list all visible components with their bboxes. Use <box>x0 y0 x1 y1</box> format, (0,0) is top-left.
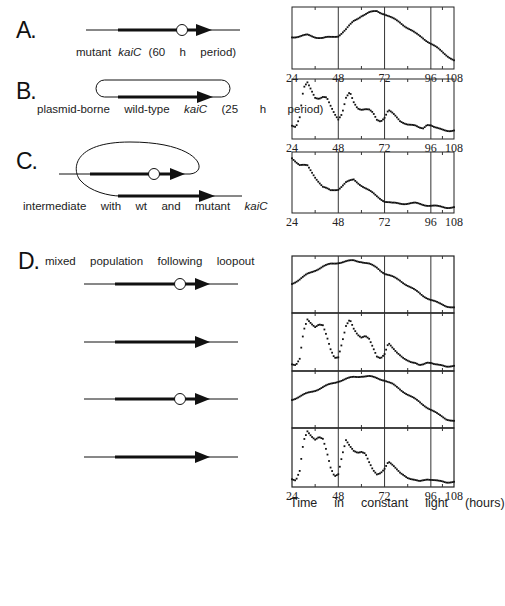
arrowhead-icon <box>199 190 215 202</box>
x-tick-label: 48 <box>332 489 344 503</box>
chart-d2 <box>291 313 455 371</box>
x-tick-label: 48 <box>332 215 344 229</box>
x-tick-label: 108 <box>445 215 463 229</box>
x-tick-label: 24 <box>286 489 298 503</box>
chart-a: 24487296108 <box>286 7 463 85</box>
gene-diagram-plasmid <box>96 80 230 103</box>
chart-c: 24487296108 <box>286 152 463 229</box>
chart-b: 24487296108 <box>286 79 463 155</box>
arrowhead-icon <box>195 451 210 463</box>
gene-wild-type <box>84 451 238 463</box>
mutation-marker-icon <box>175 279 186 290</box>
gene-diagram-intermediate <box>59 142 242 202</box>
x-tick-label: 108 <box>445 489 463 503</box>
arrowhead-icon <box>195 278 210 290</box>
gene-mutant <box>84 278 238 290</box>
arrowhead-icon <box>170 168 185 180</box>
x-tick-label: 24 <box>286 215 298 229</box>
mutation-marker-icon <box>149 169 160 180</box>
mutation-marker-icon <box>175 394 186 405</box>
arrowhead-icon <box>195 336 210 348</box>
gene-diagrams-mixed <box>84 278 238 463</box>
chart-d3 <box>291 371 455 428</box>
luminescence-charts: 2448729610824487296108244872961082448729… <box>286 7 463 503</box>
gene-wild-type <box>84 336 238 348</box>
chart-d4: 24487296108 <box>286 428 463 503</box>
x-tick-label: 72 <box>379 489 391 503</box>
x-tick-label: 96 <box>425 489 437 503</box>
gene-mutant <box>84 393 238 405</box>
arrowhead-icon <box>196 24 212 36</box>
arrowhead-icon <box>195 393 210 405</box>
mutation-marker-icon <box>177 25 188 36</box>
chart-d1 <box>291 256 455 313</box>
x-tick-label: 72 <box>379 215 391 229</box>
arrowhead-icon <box>197 91 213 103</box>
gene-diagram-mutant <box>86 24 240 36</box>
x-tick-label: 96 <box>425 215 437 229</box>
